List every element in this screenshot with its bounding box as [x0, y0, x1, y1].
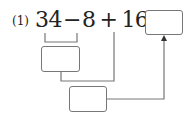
step1-box[interactable]: [41, 46, 80, 72]
connector-step2-answer: [107, 40, 164, 99]
answer-box[interactable]: [145, 10, 183, 35]
arrow-up-icon: [161, 35, 167, 41]
bracket-34-8: [45, 33, 77, 42]
step2-box[interactable]: [69, 86, 107, 112]
